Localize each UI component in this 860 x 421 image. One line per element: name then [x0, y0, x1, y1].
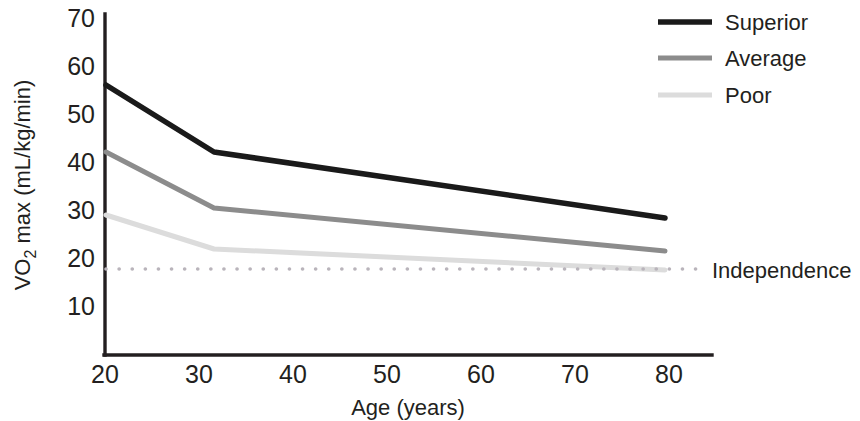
- y-tick-label: 70: [67, 4, 95, 32]
- legend-item-average[interactable]: Average: [658, 46, 807, 71]
- series-average: [106, 152, 665, 251]
- y-axis-title-prefix: VO: [10, 259, 35, 291]
- legend-label-superior: Superior: [725, 10, 808, 35]
- y-tick-label: 60: [67, 52, 95, 80]
- y-axis-title-subscript: 2: [22, 250, 39, 259]
- y-axis-title: VO2 max (mL/kg/min): [10, 80, 39, 291]
- independence-label: Independence: [712, 258, 851, 283]
- x-tick-label: 60: [467, 360, 495, 388]
- x-tick-label: 20: [91, 360, 119, 388]
- y-tick-label: 50: [67, 100, 95, 128]
- y-tick-label: 20: [67, 244, 95, 272]
- axes: [104, 14, 712, 355]
- legend-label-poor: Poor: [725, 83, 771, 108]
- legend: Superior Average Poor: [658, 10, 808, 108]
- y-axis-title-suffix: max (mL/kg/min): [10, 80, 35, 250]
- y-tick-label: 40: [67, 148, 95, 176]
- average-line: [106, 152, 665, 251]
- y-axis-tick-labels: 70 60 50 40 30 20 10: [67, 4, 95, 320]
- y-tick-label: 10: [67, 292, 95, 320]
- x-tick-label: 50: [373, 360, 401, 388]
- x-axis-title: Age (years): [351, 395, 465, 420]
- svg-text:VO2 max (mL/kg/min): VO2 max (mL/kg/min): [10, 80, 39, 291]
- x-tick-label: 80: [655, 360, 683, 388]
- legend-label-average: Average: [725, 46, 807, 71]
- legend-item-poor[interactable]: Poor: [658, 83, 771, 108]
- x-tick-label: 30: [185, 360, 213, 388]
- vo2max-age-line-chart: 70 60 50 40 30 20 10 20 30 40 50 60 70 8…: [0, 0, 860, 421]
- x-tick-label: 40: [279, 360, 307, 388]
- x-tick-label: 70: [561, 360, 589, 388]
- x-axis-tick-labels: 20 30 40 50 60 70 80: [91, 360, 683, 388]
- chart-canvas: 70 60 50 40 30 20 10 20 30 40 50 60 70 8…: [0, 0, 860, 421]
- legend-item-superior[interactable]: Superior: [658, 10, 808, 35]
- y-tick-label: 30: [67, 196, 95, 224]
